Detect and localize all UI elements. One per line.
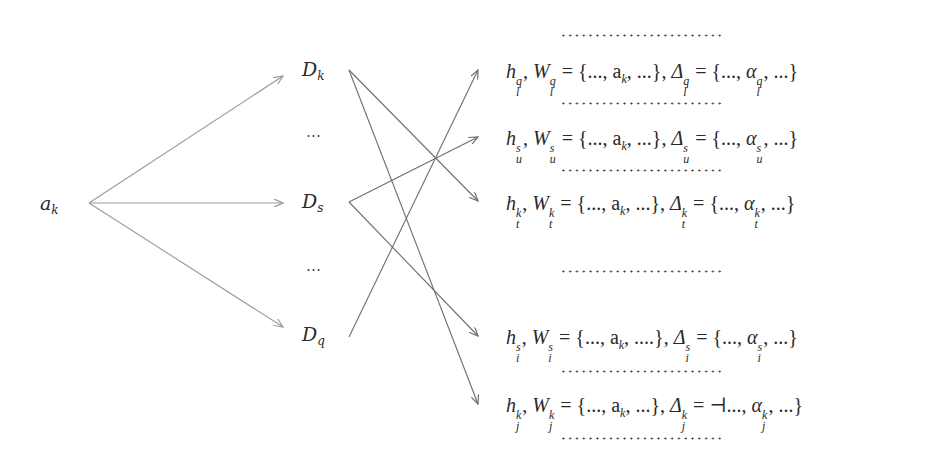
equation-row-j: hkj, Wkj = {..., ak, ...}, Δkj = ⊣..., α… — [506, 395, 803, 432]
w-set-tail: , ...} — [627, 127, 662, 149]
subscript: j — [549, 421, 554, 432]
delta-set-tail: , ...} — [761, 192, 796, 214]
delta-symbol: Δ — [671, 127, 683, 149]
sup-sub: su — [683, 143, 689, 165]
edge-ak-to-dk — [89, 76, 283, 203]
h-symbol: h — [506, 60, 516, 82]
w-symbol: W — [532, 326, 549, 348]
equation-row-l: hql, Wql = {..., ak, ...}, Δql = {..., α… — [506, 61, 798, 98]
subscript: i — [548, 353, 553, 364]
subscript: j — [516, 421, 521, 432]
dotted-separator-4 — [560, 437, 724, 440]
edge-ak-to-dq — [89, 203, 283, 327]
source-sub: k — [51, 203, 58, 217]
dotted-separator-middle — [560, 270, 724, 273]
w-symbol: W — [533, 60, 550, 82]
subscript: l — [550, 87, 556, 98]
subscript: u — [757, 154, 763, 165]
delta-set-tail: , ...} — [763, 326, 798, 348]
dotted-separator-2 — [560, 169, 724, 172]
sup-sub: ql — [757, 76, 763, 98]
edge-ds-to-hu — [349, 137, 478, 202]
delta-set-tail: , ...} — [764, 127, 799, 149]
ellipsis-lower: ⋯ — [306, 260, 322, 278]
delta-set-open: {..., — [712, 326, 742, 348]
delta-set-open: ⊣..., — [709, 394, 746, 416]
w-set: {..., a — [577, 192, 620, 214]
sup-sub: su — [516, 143, 522, 165]
alpha-symbol: α — [752, 394, 763, 416]
w-set: {..., a — [578, 127, 621, 149]
node-dq-base: D — [302, 323, 317, 345]
w-symbol: W — [532, 394, 549, 416]
dotted-separator-0 — [560, 34, 724, 37]
subscript: i — [685, 353, 690, 364]
delta-symbol: Δ — [671, 60, 683, 82]
delta-symbol: Δ — [674, 326, 686, 348]
node-dk-sub: k — [317, 69, 324, 83]
subscript: j — [682, 421, 687, 432]
h-symbol: h — [506, 394, 516, 416]
source-base: a — [40, 192, 51, 214]
w-set: {..., a — [577, 394, 620, 416]
alpha-symbol: α — [744, 192, 755, 214]
subscript: u — [683, 154, 689, 165]
sup-sub: kt — [516, 208, 521, 230]
subscript: l — [516, 87, 522, 98]
dotted-separator-1 — [560, 102, 724, 105]
sup-sub: si — [685, 342, 690, 364]
equation-row-t: hkt, Wkt = {..., ak, ...}, Δkt = {..., α… — [506, 193, 795, 230]
subscript: t — [549, 219, 554, 230]
sup-sub: su — [757, 143, 763, 165]
mid-edges — [349, 70, 478, 404]
source-node-ak: ak — [40, 194, 59, 216]
edge-dq-to-hl — [349, 70, 478, 337]
sup-sub: si — [758, 342, 763, 364]
node-dq-sub: q — [317, 334, 325, 348]
delta-set-tail: , ...} — [768, 394, 803, 416]
node-dk-base: D — [302, 58, 317, 80]
sup-sub: kj — [516, 410, 521, 432]
sup-sub: si — [516, 342, 521, 364]
subscript: t — [516, 219, 521, 230]
subscript: l — [683, 87, 689, 98]
sup-sub: su — [550, 143, 556, 165]
subscript: t — [755, 219, 760, 230]
node-ds: Ds — [302, 192, 323, 214]
subscript: t — [682, 219, 687, 230]
w-set: {..., a — [575, 326, 618, 348]
edges-layer — [0, 0, 952, 457]
w-set-tail: , ...} — [625, 394, 660, 416]
subscript: i — [516, 353, 521, 364]
w-set: {..., a — [578, 60, 621, 82]
sup-sub: kj — [549, 410, 554, 432]
w-set-tail: , ...} — [625, 192, 660, 214]
h-symbol: h — [506, 192, 516, 214]
edge-dk-to-hj — [349, 70, 478, 404]
delta-set-open: {..., — [711, 127, 741, 149]
sup-sub: kj — [682, 410, 687, 432]
w-set-tail: , ...} — [627, 60, 662, 82]
sup-sub: kt — [682, 208, 687, 230]
equation-row-u: hsu, Wsu = {..., ak, ...}, Δsu = {..., α… — [506, 128, 798, 165]
edge-dk-to-ht — [349, 70, 478, 201]
ellipsis-upper: ⋯ — [306, 126, 322, 144]
sup-sub: ql — [550, 76, 556, 98]
w-set-tail: , ....} — [624, 326, 664, 348]
h-symbol: h — [506, 326, 516, 348]
sup-sub: kt — [755, 208, 760, 230]
delta-set-tail: , ...} — [764, 60, 799, 82]
alpha-symbol: α — [746, 60, 757, 82]
delta-set-open: {..., — [711, 60, 741, 82]
edge-ds-to-hi — [349, 202, 478, 336]
sup-sub: ql — [516, 76, 522, 98]
delta-set-open: {..., — [709, 192, 739, 214]
subscript: j — [762, 421, 767, 432]
sup-sub: ql — [683, 76, 689, 98]
node-ds-sub: s — [317, 201, 323, 215]
subscript: l — [757, 87, 763, 98]
alpha-symbol: α — [746, 127, 757, 149]
subscript: i — [758, 353, 763, 364]
w-symbol: W — [533, 127, 550, 149]
source-edges — [89, 76, 283, 327]
